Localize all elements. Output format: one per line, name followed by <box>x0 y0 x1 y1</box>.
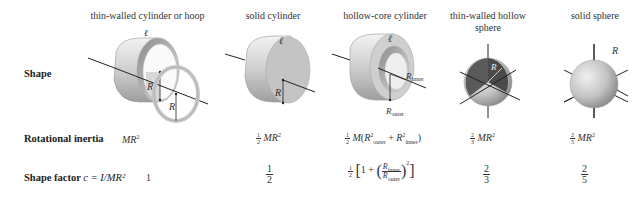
svg-text:R: R <box>490 62 497 72</box>
thin-walled-cylinder-diagram: R R ℓ <box>80 30 220 125</box>
radius-label: R <box>146 81 153 92</box>
svg-text:R: R <box>168 101 175 112</box>
svg-text:Router: Router <box>385 106 404 117</box>
shape-factor-solid-sphere: 25 <box>581 164 588 185</box>
inertia-solid-sphere: 25 MR2 <box>570 132 595 145</box>
column-title-thin-walled-hollow-sphere: thin-walled hollow sphere <box>448 10 528 34</box>
shape-factor-prefix: Shape factor <box>24 172 83 183</box>
thin-walled-hollow-sphere-diagram: R <box>448 40 528 120</box>
svg-text:Rinner: Rinner <box>405 71 424 82</box>
solid-cylinder-diagram: R ℓ <box>225 30 325 125</box>
shape-factor-hollow-sphere: 23 <box>483 164 490 185</box>
column-title-solid-sphere: solid sphere <box>560 10 630 22</box>
inertia-solid-cylinder: 12 MR2 <box>256 132 281 145</box>
row-label-shape: Shape <box>24 68 51 79</box>
inertia-hoop: MR2 <box>122 134 139 145</box>
svg-text:R: R <box>611 45 618 56</box>
column-title-solid-cylinder: solid cylinder <box>228 10 318 22</box>
svg-text:ℓ: ℓ <box>144 30 148 38</box>
solid-sphere-diagram: R <box>556 40 633 120</box>
inertia-hollow-core-cylinder: 12 M(R2outer + R2inner) <box>345 132 421 145</box>
shape-factor-solid-cylinder: 12 <box>266 164 273 185</box>
shape-factor-hoop: 1 <box>146 172 151 183</box>
column-title-hollow-core-cylinder: hollow-core cylinder <box>335 10 435 22</box>
row-label-rotational-inertia: Rotational inertia <box>24 133 104 144</box>
column-title-thin-walled-cylinder: thin-walled cylinder or hoop <box>80 10 215 22</box>
svg-text:R: R <box>274 87 281 98</box>
shape-factor-hollow-core-cylinder: 12 [1 + (RinnerRouter)2] <box>348 162 415 180</box>
svg-text:ℓ: ℓ <box>279 35 283 46</box>
shape-factor-formula: c = I/MR² <box>83 172 125 183</box>
hollow-core-cylinder-diagram: Rinner Router ℓ <box>320 30 435 125</box>
inertia-hollow-sphere: 23 MR2 <box>470 132 495 145</box>
row-label-shape-factor: Shape factor c = I/MR² <box>24 172 125 183</box>
svg-text:ℓ: ℓ <box>388 33 392 44</box>
